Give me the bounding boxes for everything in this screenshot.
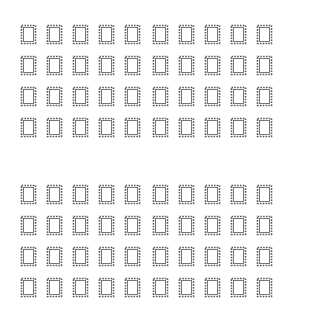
missing-glyph-icon [178, 117, 195, 138]
text-line [20, 246, 280, 268]
missing-glyph-icon [152, 117, 169, 138]
missing-glyph-icon [152, 246, 169, 267]
missing-glyph-icon [230, 86, 247, 107]
missing-glyph-icon [204, 215, 221, 236]
missing-glyph-icon [72, 215, 89, 236]
missing-glyph-icon [256, 55, 273, 76]
missing-glyph-icon [178, 24, 195, 45]
missing-glyph-icon [124, 55, 141, 76]
missing-glyph-icon [46, 215, 63, 236]
missing-glyph-icon [124, 215, 141, 236]
missing-glyph-icon [124, 24, 141, 45]
missing-glyph-icon [20, 215, 37, 236]
word [152, 215, 273, 236]
text-line [20, 184, 280, 206]
missing-glyph-icon [46, 246, 63, 267]
missing-glyph-icon [46, 184, 63, 205]
missing-glyph-icon [152, 184, 169, 205]
missing-glyph-icon [98, 24, 115, 45]
missing-glyph-icon [46, 24, 63, 45]
word [20, 215, 141, 236]
missing-glyph-icon [72, 55, 89, 76]
missing-glyph-icon [230, 277, 247, 298]
missing-glyph-icon [152, 215, 169, 236]
missing-glyph-icon [20, 117, 37, 138]
glyph-block-bottom [20, 184, 280, 308]
text-line [20, 24, 280, 46]
missing-glyph-icon [20, 86, 37, 107]
missing-glyph-icon [204, 184, 221, 205]
missing-glyph-icon [256, 24, 273, 45]
word [152, 246, 273, 267]
missing-glyph-icon [152, 86, 169, 107]
missing-glyph-icon [20, 24, 37, 45]
word [20, 246, 141, 267]
missing-glyph-icon [178, 55, 195, 76]
missing-glyph-icon [204, 55, 221, 76]
missing-glyph-icon [72, 86, 89, 107]
missing-glyph-icon [256, 184, 273, 205]
missing-glyph-icon [256, 246, 273, 267]
missing-glyph-icon [204, 246, 221, 267]
word [20, 277, 141, 298]
missing-glyph-icon [46, 117, 63, 138]
missing-glyph-icon [72, 277, 89, 298]
missing-glyph-icon [204, 277, 221, 298]
missing-glyph-icon [98, 277, 115, 298]
missing-glyph-icon [98, 246, 115, 267]
word [152, 184, 273, 205]
missing-glyph-icon [178, 277, 195, 298]
missing-glyph-icon [20, 55, 37, 76]
missing-glyph-icon [46, 55, 63, 76]
missing-glyph-icon [46, 86, 63, 107]
missing-glyph-icon [152, 55, 169, 76]
word [20, 24, 141, 45]
missing-glyph-icon [230, 184, 247, 205]
missing-glyph-icon [72, 246, 89, 267]
word [152, 117, 273, 138]
missing-glyph-icon [46, 277, 63, 298]
missing-glyph-icon [230, 24, 247, 45]
missing-glyph-icon [204, 117, 221, 138]
missing-glyph-icon [124, 86, 141, 107]
missing-glyph-icon [230, 246, 247, 267]
word [20, 117, 141, 138]
word [152, 24, 273, 45]
missing-glyph-icon [124, 246, 141, 267]
missing-glyph-icon [204, 86, 221, 107]
missing-glyph-icon [230, 215, 247, 236]
missing-glyph-icon [98, 184, 115, 205]
word [152, 277, 273, 298]
missing-glyph-icon [230, 117, 247, 138]
text-line [20, 277, 280, 299]
missing-glyph-icon [72, 184, 89, 205]
missing-glyph-icon [124, 184, 141, 205]
missing-glyph-icon [256, 215, 273, 236]
missing-glyph-icon [178, 246, 195, 267]
missing-glyph-icon [178, 184, 195, 205]
text-line [20, 86, 280, 108]
missing-glyph-icon [256, 86, 273, 107]
missing-glyph-icon [124, 117, 141, 138]
missing-glyph-icon [204, 24, 221, 45]
text-line [20, 117, 280, 139]
missing-glyph-icon [98, 215, 115, 236]
text-line [20, 215, 280, 237]
missing-glyph-icon [178, 215, 195, 236]
missing-glyph-icon [98, 117, 115, 138]
missing-glyph-icon [256, 117, 273, 138]
missing-glyph-icon [152, 277, 169, 298]
text-line [20, 55, 280, 77]
missing-glyph-icon [20, 246, 37, 267]
missing-glyph-icon [98, 55, 115, 76]
missing-glyph-icon [98, 86, 115, 107]
word [152, 55, 273, 76]
glyph-block-top [20, 24, 280, 148]
missing-glyph-icon [72, 24, 89, 45]
missing-glyph-icon [178, 86, 195, 107]
word [152, 86, 273, 107]
missing-glyph-icon [72, 117, 89, 138]
word [20, 184, 141, 205]
missing-glyph-icon [230, 55, 247, 76]
missing-glyph-icon [256, 277, 273, 298]
